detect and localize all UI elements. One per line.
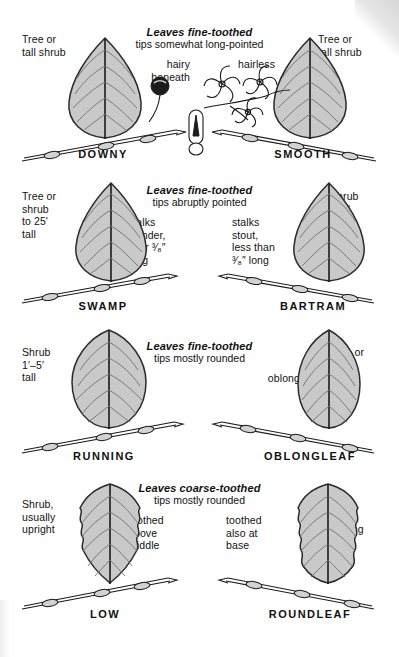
berry-illustration <box>145 74 179 124</box>
species-label-left: DOWNY <box>38 148 168 160</box>
species-label-left: RUNNING <box>36 450 172 462</box>
chart-row: Leaves coarse-toothed tips mostly rounde… <box>0 468 399 653</box>
species-label-left: SWAMP <box>38 300 168 312</box>
leaf-illustration-downy <box>63 36 147 140</box>
twig-illustration-right <box>218 576 378 612</box>
species-label-right: OBLONGLEAF <box>238 450 382 462</box>
leaf-illustration-roundleaf <box>286 482 370 586</box>
species-label-right: SMOOTH <box>238 148 368 160</box>
note-inner-right: oblong <box>230 372 300 385</box>
chart-row: Leaves fine-toothed tips somewhat long-p… <box>0 0 399 172</box>
leaf-illustration-low <box>68 482 152 586</box>
twig-illustration-left <box>18 576 178 612</box>
species-label-left: LOW <box>40 608 170 620</box>
leaf-illustration-bartram <box>288 182 370 282</box>
leaf-identification-chart: Leaves fine-toothed tips somewhat long-p… <box>0 0 399 657</box>
leaf-illustration-oblongleaf <box>292 328 366 430</box>
leaf-illustration-running <box>66 328 152 430</box>
flower-cluster-illustration <box>196 66 292 132</box>
note-inner-right: toothed also at base <box>226 514 290 552</box>
species-label-right: ROUNDLEAF <box>240 608 380 620</box>
chart-row: Leaves fine-toothed tips mostly rounded … <box>0 320 399 468</box>
species-label-right: BARTRAM <box>248 300 378 312</box>
chart-row: Leaves fine-toothed tips abruptly pointe… <box>0 172 399 320</box>
leaf-illustration-swamp <box>70 182 152 282</box>
